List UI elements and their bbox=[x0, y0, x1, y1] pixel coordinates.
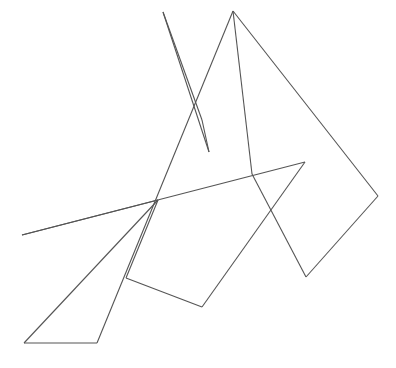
canvas-background bbox=[0, 0, 396, 368]
figure-canvas: Abstract overlapping polygon line drawin… bbox=[0, 0, 396, 368]
abstract-line-drawing: Abstract overlapping polygon line drawin… bbox=[0, 0, 396, 368]
